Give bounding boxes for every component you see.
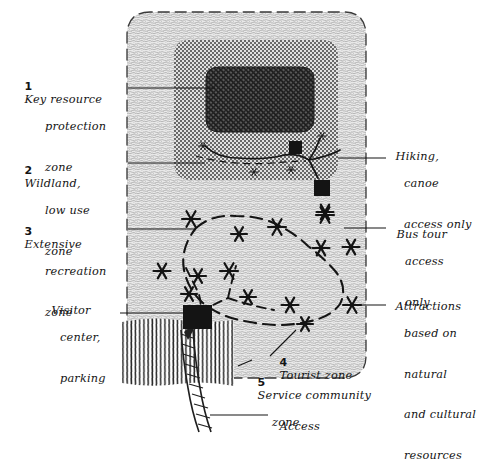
attractions-line-1: Attractions <box>396 300 462 313</box>
attractions-line-2: based on <box>388 327 476 341</box>
bus-tour-line-2: access <box>389 255 447 269</box>
access-line-1: Access <box>280 420 320 433</box>
zone-1-line-2: protection <box>17 120 106 134</box>
zone-3-line-2: recreation <box>17 265 106 279</box>
zone-service-community <box>122 318 234 386</box>
label-access: Access <box>272 406 320 433</box>
label-attractions: Attractions based on natural and cultura… <box>388 286 476 463</box>
zone-5-number: 5 <box>258 376 266 389</box>
zone-1-line-1: Key resource <box>25 93 103 106</box>
zone-2-number: 2 <box>25 164 33 177</box>
zone-key-resource-protection <box>206 67 314 132</box>
hiking-line-1: Hiking, <box>396 150 439 163</box>
visitor-center-line-2: center, <box>44 331 106 345</box>
zone-5-line-1: Service community <box>258 389 371 402</box>
attractions-line-3: natural <box>388 368 476 382</box>
zone-3-line-1: Extensive <box>25 238 82 251</box>
hiking-line-2: canoe <box>388 177 472 191</box>
zone-2-line-1: Wildland, <box>25 177 81 190</box>
zone-3-number: 3 <box>25 225 33 238</box>
visitor-center-line-1: Visitor <box>52 304 91 317</box>
node-trailhead <box>289 141 302 154</box>
node-bus-stop <box>314 180 330 196</box>
zone-1-number: 1 <box>25 80 33 93</box>
node-visitor-center <box>183 305 212 329</box>
attractions-line-4: and cultural <box>388 408 476 422</box>
visitor-center-line-3: parking <box>44 372 106 386</box>
bus-tour-line-1: Bus tour <box>397 228 448 241</box>
attractions-line-5: resources <box>388 449 476 463</box>
label-visitor-center: Visitor center, parking <box>44 290 106 399</box>
